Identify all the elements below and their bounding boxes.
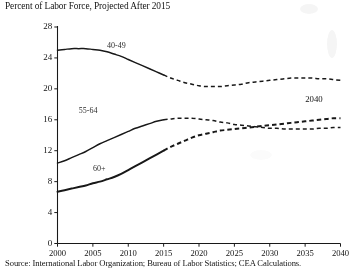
series-label-40-49: 40-49 (107, 41, 126, 50)
x-axis-tick-label: 2000 (41, 248, 75, 258)
y-axis-tick-label: 12 (28, 145, 52, 155)
y-axis-tick-label: 16 (28, 114, 52, 124)
x-axis-tick-label: 2025 (217, 248, 251, 258)
series-line-historical (58, 49, 164, 75)
x-axis-tick-label: 2005 (76, 248, 110, 258)
x-axis-tick-label: 2010 (111, 248, 145, 258)
y-axis-tick-label: 8 (28, 176, 52, 186)
series-40-49 (58, 49, 341, 87)
x-axis-tick-label: 2030 (253, 248, 287, 258)
series-line-projected (164, 118, 341, 151)
y-axis-tick-label: 4 (28, 207, 52, 217)
y-axis-tick-label: 24 (28, 52, 52, 62)
x-axis-tick-label: 2015 (147, 248, 181, 258)
annotation-label: 2040 (305, 94, 323, 104)
series-label-55-64: 55-64 (79, 106, 98, 115)
series-55-64 (58, 118, 341, 163)
y-axis-tick-label: 0 (28, 238, 52, 248)
series-line-projected (164, 75, 341, 87)
source-note: Source: International Labor Organization… (5, 258, 301, 268)
y-axis-tick-label: 20 (28, 83, 52, 93)
chart-canvas (0, 0, 350, 272)
figure-container: Percent of Labor Force, Projected After … (0, 0, 350, 272)
x-axis-tick-label: 2040 (324, 248, 350, 258)
x-axis-tick-label: 2035 (288, 248, 322, 258)
plot-area (0, 0, 350, 272)
series-label-60plus: 60+ (93, 164, 106, 173)
y-axis-tick-label: 28 (28, 21, 52, 31)
series-line-historical (58, 120, 164, 163)
x-axis-tick-label: 2020 (182, 248, 216, 258)
